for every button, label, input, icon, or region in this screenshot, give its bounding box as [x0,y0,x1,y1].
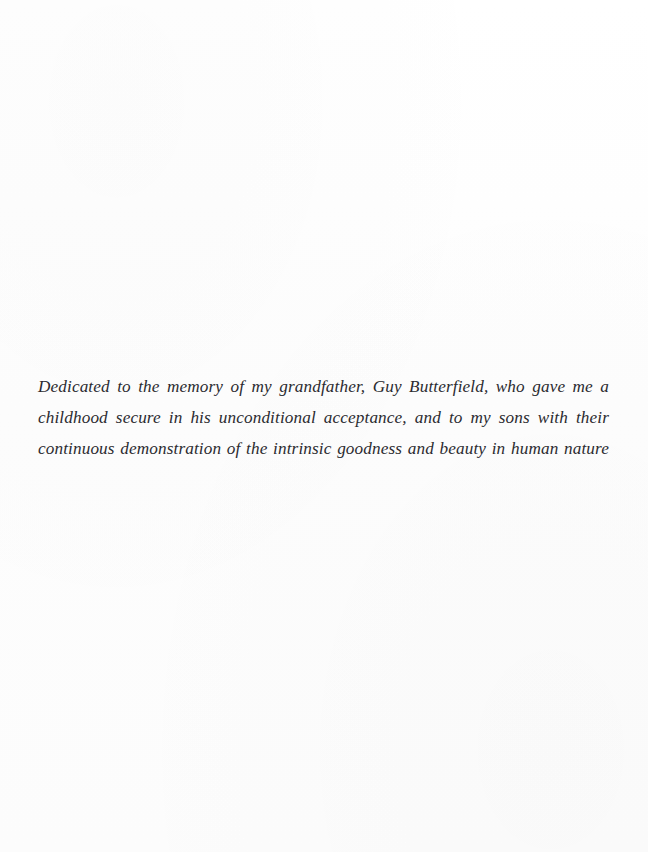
dedication-block: Dedicated to the memory of my grandfathe… [38,371,609,496]
dedication-page: Dedicated to the memory of my grandfathe… [0,0,648,852]
dedication-text: Dedicated to the memory of my grandfathe… [38,371,609,496]
